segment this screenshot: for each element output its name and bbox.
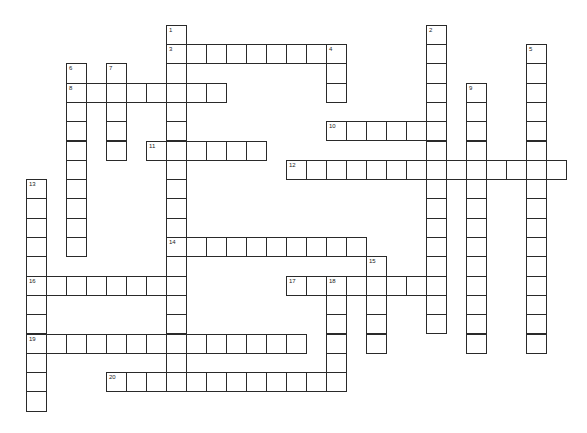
crossword-cell[interactable]: 4 [326, 44, 347, 64]
crossword-cell[interactable] [466, 179, 487, 199]
crossword-cell[interactable] [306, 44, 327, 64]
crossword-cell[interactable] [426, 314, 447, 334]
crossword-cell[interactable] [166, 256, 187, 276]
crossword-cell[interactable] [266, 44, 287, 64]
crossword-cell[interactable] [166, 314, 187, 334]
crossword-cell[interactable] [66, 198, 87, 218]
crossword-cell[interactable]: 17 [286, 276, 307, 296]
crossword-cell[interactable] [86, 276, 107, 296]
crossword-cell[interactable] [26, 198, 47, 218]
crossword-cell[interactable]: 15 [366, 256, 387, 276]
crossword-cell[interactable] [226, 141, 247, 161]
crossword-cell[interactable] [466, 334, 487, 354]
crossword-cell[interactable] [166, 334, 187, 354]
crossword-cell[interactable] [426, 198, 447, 218]
crossword-cell[interactable] [306, 237, 327, 257]
crossword-cell[interactable]: 10 [326, 121, 347, 141]
crossword-cell[interactable] [286, 372, 307, 392]
crossword-cell[interactable] [306, 160, 327, 180]
crossword-cell[interactable] [526, 276, 547, 296]
crossword-cell[interactable] [186, 372, 207, 392]
crossword-cell[interactable] [426, 102, 447, 122]
crossword-cell[interactable] [366, 334, 387, 354]
crossword-cell[interactable]: 14 [166, 237, 187, 257]
crossword-cell[interactable] [526, 334, 547, 354]
crossword-cell[interactable] [526, 295, 547, 315]
crossword-cell[interactable] [366, 276, 387, 296]
crossword-cell[interactable] [466, 141, 487, 161]
crossword-cell[interactable] [426, 295, 447, 315]
crossword-cell[interactable] [326, 237, 347, 257]
crossword-cell[interactable] [66, 102, 87, 122]
crossword-cell[interactable] [526, 160, 547, 180]
crossword-cell[interactable]: 16 [26, 276, 47, 296]
crossword-cell[interactable] [246, 237, 267, 257]
crossword-cell[interactable] [466, 237, 487, 257]
crossword-cell[interactable] [26, 353, 47, 373]
crossword-cell[interactable] [26, 256, 47, 276]
crossword-cell[interactable] [366, 295, 387, 315]
crossword-cell[interactable] [26, 314, 47, 334]
crossword-cell[interactable] [466, 102, 487, 122]
crossword-cell[interactable] [426, 121, 447, 141]
crossword-cell[interactable] [166, 141, 187, 161]
crossword-cell[interactable] [106, 334, 127, 354]
crossword-cell[interactable] [126, 334, 147, 354]
crossword-cell[interactable] [426, 63, 447, 83]
crossword-cell[interactable] [246, 334, 267, 354]
crossword-cell[interactable] [26, 391, 47, 411]
crossword-cell[interactable] [466, 160, 487, 180]
crossword-cell[interactable] [366, 314, 387, 334]
crossword-cell[interactable] [426, 44, 447, 64]
crossword-cell[interactable] [526, 198, 547, 218]
crossword-cell[interactable] [466, 121, 487, 141]
crossword-cell[interactable] [246, 44, 267, 64]
crossword-cell[interactable] [286, 334, 307, 354]
crossword-cell[interactable] [126, 83, 147, 103]
crossword-cell[interactable] [286, 44, 307, 64]
crossword-cell[interactable]: 9 [466, 83, 487, 103]
crossword-cell[interactable] [46, 334, 67, 354]
crossword-cell[interactable] [326, 314, 347, 334]
crossword-cell[interactable]: 11 [146, 141, 167, 161]
crossword-cell[interactable] [166, 218, 187, 238]
crossword-cell[interactable] [466, 218, 487, 238]
crossword-cell[interactable] [166, 353, 187, 373]
crossword-cell[interactable]: 5 [526, 44, 547, 64]
crossword-cell[interactable] [426, 141, 447, 161]
crossword-cell[interactable] [206, 334, 227, 354]
crossword-cell[interactable] [246, 141, 267, 161]
crossword-cell[interactable] [466, 314, 487, 334]
crossword-cell[interactable] [426, 179, 447, 199]
crossword-cell[interactable] [66, 121, 87, 141]
crossword-cell[interactable] [166, 83, 187, 103]
crossword-cell[interactable] [86, 334, 107, 354]
crossword-cell[interactable] [326, 83, 347, 103]
crossword-cell[interactable] [146, 334, 167, 354]
crossword-cell[interactable]: 18 [326, 276, 347, 296]
crossword-cell[interactable] [266, 372, 287, 392]
crossword-cell[interactable]: 3 [166, 44, 187, 64]
crossword-cell[interactable] [226, 334, 247, 354]
crossword-cell[interactable] [366, 160, 387, 180]
crossword-cell[interactable] [266, 334, 287, 354]
crossword-cell[interactable]: 20 [106, 372, 127, 392]
crossword-cell[interactable] [466, 198, 487, 218]
crossword-cell[interactable] [266, 237, 287, 257]
crossword-cell[interactable] [526, 237, 547, 257]
crossword-cell[interactable] [126, 276, 147, 296]
crossword-cell[interactable] [66, 276, 87, 296]
crossword-cell[interactable] [166, 63, 187, 83]
crossword-cell[interactable] [326, 63, 347, 83]
crossword-cell[interactable] [526, 121, 547, 141]
crossword-cell[interactable] [206, 141, 227, 161]
crossword-cell[interactable] [326, 160, 347, 180]
crossword-cell[interactable] [146, 372, 167, 392]
crossword-cell[interactable] [166, 102, 187, 122]
crossword-cell[interactable] [206, 237, 227, 257]
crossword-cell[interactable] [66, 334, 87, 354]
crossword-cell[interactable] [206, 44, 227, 64]
crossword-cell[interactable] [126, 372, 147, 392]
crossword-cell[interactable] [466, 295, 487, 315]
crossword-cell[interactable] [406, 160, 427, 180]
